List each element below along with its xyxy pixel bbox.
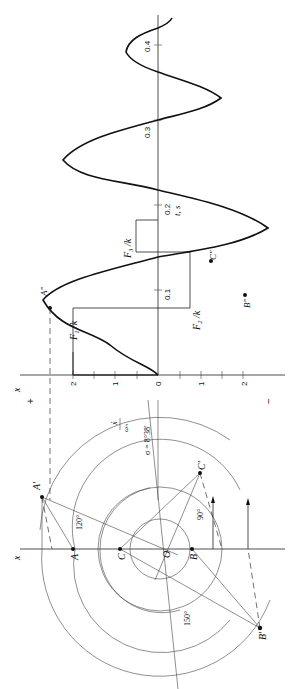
t-tick-label: 0.2 (163, 203, 172, 215)
phase-x-label: x (11, 555, 22, 561)
velocity-label-den: ωₙ (122, 424, 130, 432)
velocity-label: ẋ (110, 421, 119, 426)
minus-sign: − (263, 398, 274, 404)
force-label-f2: F₂ /k (191, 310, 202, 331)
x-tick-label: 1 (111, 381, 120, 386)
point-b-double-prime (243, 293, 247, 297)
t-tick-label: 0.3 (143, 126, 152, 138)
label-b-double-prime: B″ (242, 299, 252, 308)
phase-plane: x ẋ ωₙ σ = 8°38′ 120° 90° (11, 400, 285, 689)
label-a-double-prime: A″ (39, 287, 49, 297)
t-axis-label: t, s (172, 205, 182, 216)
angle-90: 90° (196, 509, 205, 520)
x-tick-label: 2 (69, 381, 78, 386)
angle-120: 120° (75, 515, 84, 530)
point-c-prime (198, 471, 202, 475)
point-a (71, 547, 75, 551)
point-a-prime (40, 495, 44, 499)
x-tick-label: 1 (197, 381, 206, 386)
label-c-prime: C′ (196, 460, 207, 470)
label-a: A (69, 553, 80, 561)
radius-a (42, 497, 178, 555)
x-axis-label: x (11, 387, 22, 393)
x-tick-label: 0 (154, 381, 163, 386)
label-c: C (116, 553, 127, 560)
plus-sign: + (25, 398, 36, 404)
label-o: O (161, 551, 172, 558)
force-f3-segment (136, 220, 158, 252)
force-label-f3: F₃ /k (122, 238, 133, 259)
force-step-start (73, 352, 158, 375)
force-f1-segment (73, 308, 158, 375)
point-b-prime (258, 626, 262, 630)
angle-150: 150° (183, 611, 192, 626)
label-b: B (188, 554, 199, 560)
t-tick-label: 0.1 (163, 288, 172, 300)
label-c-double-prime: C″ (208, 250, 218, 260)
velocity-axis (148, 400, 178, 689)
point-c (118, 547, 122, 551)
label-a-prime: A′ (31, 481, 42, 491)
force-label-f1: F₁ /k (68, 320, 79, 341)
x-tick-label: 2 (240, 381, 249, 386)
label-b-prime: B′ (257, 631, 268, 640)
point-b (190, 547, 194, 551)
t-tick-label: 0.4 (143, 40, 152, 52)
phase-plane-diagram: 2 1 0 1 2 + − x 0.1 0.2 0.3 0.4 t, s F₁ … (0, 0, 299, 689)
